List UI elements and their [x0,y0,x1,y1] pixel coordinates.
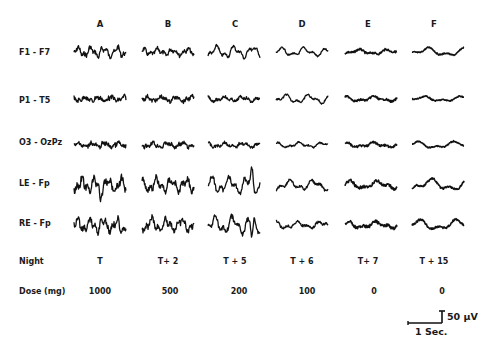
night-value-f: T + 15 [404,257,464,266]
eeg-trace [142,165,194,205]
column-header-b: B [158,19,178,29]
channel-label-f1-f7: F1 - F7 [19,48,50,57]
channel-label-p1-t5: P1 - T5 [19,96,50,105]
eeg-trace [208,125,260,165]
dose-value-f: 0 [412,287,472,296]
eeg-trace [276,79,328,119]
night-value-e: T+ 7 [338,257,398,266]
dose-label: Dose (mg) [19,287,65,296]
dose-value-d: 100 [277,287,337,296]
eeg-trace [142,125,194,165]
scale-time-label: 1 Sec. [415,326,447,337]
dose-value-a: 1000 [70,287,130,296]
channel-label-le-fp: LE - Fp [19,179,50,188]
eeg-trace [208,205,260,245]
eeg-trace [412,125,464,165]
scale-bar-icon [405,308,445,328]
eeg-trace [276,125,328,165]
scale-amplitude-label: 50 µV [447,311,478,322]
eeg-trace [74,165,126,205]
eeg-trace [142,79,194,119]
eeg-trace [345,125,397,165]
eeg-trace [276,165,328,205]
night-value-d: T + 6 [272,257,332,266]
eeg-trace [74,205,126,245]
eeg-trace [412,32,464,72]
eeg-trace [345,165,397,205]
column-header-d: D [292,19,312,29]
eeg-trace [412,79,464,119]
eeg-trace [142,205,194,245]
night-value-a: T [70,257,130,266]
eeg-trace [208,165,260,205]
night-value-b: T+ 2 [138,257,198,266]
eeg-trace [276,32,328,72]
channel-label-re-fp: RE - Fp [19,219,51,228]
eeg-trace [74,125,126,165]
dose-value-e: 0 [344,287,404,296]
eeg-trace [142,32,194,72]
night-label: Night [19,257,44,266]
eeg-trace [208,79,260,119]
eeg-trace [345,205,397,245]
column-header-a: A [90,19,110,29]
eeg-trace [276,205,328,245]
eeg-trace [208,32,260,72]
dose-value-c: 200 [209,287,269,296]
eeg-trace [74,32,126,72]
column-header-f: F [424,19,444,29]
column-header-e: E [358,19,378,29]
column-header-c: C [225,19,245,29]
eeg-trace [345,32,397,72]
night-value-c: T + 5 [205,257,265,266]
dose-value-b: 500 [140,287,200,296]
eeg-trace [345,79,397,119]
eeg-trace [74,79,126,119]
eeg-trace [412,165,464,205]
eeg-trace [412,205,464,245]
channel-label-o3-ozpz: O3 - OzPz [19,138,62,147]
